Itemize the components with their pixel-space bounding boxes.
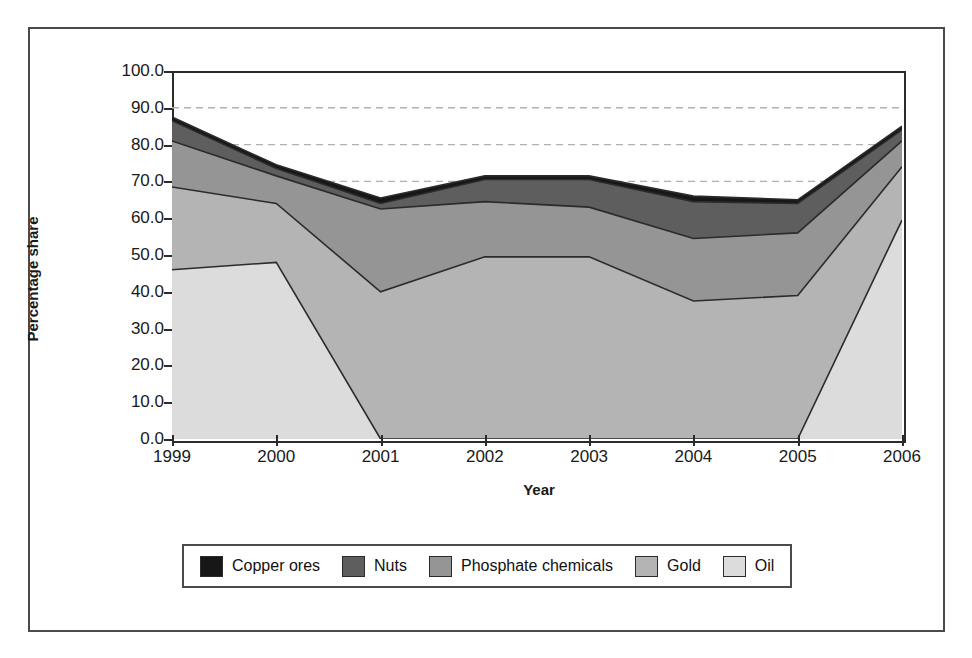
x-axis-tick-label: 1999 xyxy=(132,447,212,467)
legend-swatch-icon xyxy=(723,556,746,577)
y-axis-tick-label: 60.0 xyxy=(86,208,164,228)
x-axis-tick-mark xyxy=(276,435,278,446)
y-axis-tick-label: 20.0 xyxy=(86,355,164,375)
x-axis-tick-mark xyxy=(902,435,904,446)
x-axis-tick-label: 2000 xyxy=(236,447,316,467)
x-axis-tick-mark xyxy=(798,435,800,446)
y-axis-tick-label: 80.0 xyxy=(86,135,164,155)
legend-swatch-icon xyxy=(200,556,223,577)
x-axis-tick-label: 2006 xyxy=(862,447,942,467)
legend-swatch-icon xyxy=(635,556,658,577)
x-axis-tick-label: 2005 xyxy=(758,447,838,467)
legend-item-label: Gold xyxy=(667,557,701,575)
y-axis-tick-label: 50.0 xyxy=(86,245,164,265)
y-axis-tick-label: 10.0 xyxy=(86,392,164,412)
legend-item-label: Copper ores xyxy=(232,557,320,575)
x-axis-tick-label: 2001 xyxy=(341,447,421,467)
legend-item-label: Oil xyxy=(755,557,775,575)
x-axis-tick-mark xyxy=(693,435,695,446)
plot-wrapper xyxy=(172,71,902,439)
x-axis-tick-mark xyxy=(381,435,383,446)
y-axis-tick-label: 40.0 xyxy=(86,282,164,302)
chart-figure-frame: Percentage share 0.010.020.030.040.050.0… xyxy=(28,27,945,632)
x-axis-tick-mark xyxy=(485,435,487,446)
stacked-area-chart xyxy=(172,71,902,439)
x-axis-tick-label: 2004 xyxy=(653,447,733,467)
y-axis-tick-label: 100.0 xyxy=(86,61,164,81)
legend-item[interactable]: Phosphate chemicals xyxy=(429,556,613,577)
legend-item[interactable]: Nuts xyxy=(342,556,407,577)
x-axis-tick-labels: 19992000200120022003200420052006 xyxy=(172,447,906,477)
x-axis-title: Year xyxy=(172,481,906,498)
y-axis-tick-labels: 0.010.020.030.040.050.060.070.080.090.01… xyxy=(78,71,164,439)
legend-item-label: Nuts xyxy=(374,557,407,575)
y-axis-tick-label: 30.0 xyxy=(86,319,164,339)
y-axis-tick-label: 0.0 xyxy=(86,429,164,449)
x-axis-tick-label: 2003 xyxy=(549,447,629,467)
x-axis-tick-mark xyxy=(589,435,591,446)
legend-item[interactable]: Copper ores xyxy=(200,556,320,577)
legend-item[interactable]: Gold xyxy=(635,556,701,577)
y-axis-tick-label: 90.0 xyxy=(86,98,164,118)
x-axis-tick-mark xyxy=(172,435,174,446)
legend-item[interactable]: Oil xyxy=(723,556,775,577)
legend-item-label: Phosphate chemicals xyxy=(461,557,613,575)
legend-swatch-icon xyxy=(342,556,365,577)
chart-legend: Copper oresNutsPhosphate chemicalsGoldOi… xyxy=(182,544,792,588)
legend-swatch-icon xyxy=(429,556,452,577)
y-axis-tick-label: 70.0 xyxy=(86,171,164,191)
x-axis-tick-label: 2002 xyxy=(445,447,525,467)
